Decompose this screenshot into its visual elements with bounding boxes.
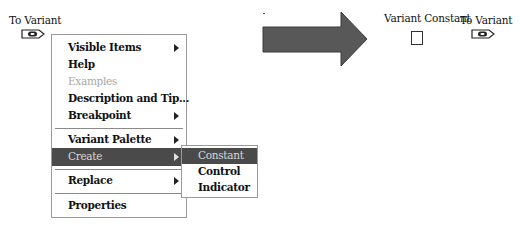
menu-item-label: Create (68, 150, 102, 162)
submenu-item-control[interactable]: Control (182, 164, 257, 180)
menu-item-create[interactable]: Create (52, 148, 186, 166)
to-variant-label-result: To Variant (460, 14, 512, 26)
submenu-item-indicator[interactable]: Indicator (182, 180, 257, 196)
submenu-arrow-icon (174, 136, 179, 144)
menu-item-examples: Examples (52, 73, 186, 91)
right-arrow-icon (255, 5, 375, 75)
submenu-arrow-icon (174, 177, 179, 185)
menu-item-properties[interactable]: Properties (52, 197, 186, 215)
menu-item-replace[interactable]: Replace (52, 172, 186, 190)
menu-item-label: Replace (68, 174, 113, 186)
menu-item-label: Description and Tip... (68, 92, 189, 104)
menu-item-visible-items[interactable]: Visible Items (52, 39, 186, 57)
menu-separator (55, 128, 183, 129)
submenu-item-label: Control (198, 165, 240, 177)
create-submenu: Constant Control Indicator (181, 145, 258, 198)
menu-separator (55, 193, 183, 194)
menu-separator (55, 169, 183, 170)
menu-item-label: Breakpoint (68, 109, 131, 121)
menu-item-breakpoint[interactable]: Breakpoint (52, 107, 186, 125)
menu-item-label: Visible Items (68, 41, 141, 53)
variant-constant-box[interactable] (411, 31, 423, 45)
menu-item-help[interactable]: Help (52, 56, 186, 74)
to-variant-icon[interactable] (21, 29, 45, 39)
menu-item-label: Variant Palette (68, 133, 151, 145)
menu-item-label: Examples (68, 75, 117, 87)
submenu-item-label: Constant (198, 149, 244, 161)
variant-constant-label: Variant Constant (384, 12, 471, 24)
submenu-item-label: Indicator (198, 181, 250, 193)
to-variant-label: To Variant (9, 14, 61, 26)
menu-item-description-and-tip[interactable]: Description and Tip... (52, 90, 186, 108)
submenu-arrow-icon (174, 44, 179, 52)
submenu-item-constant[interactable]: Constant (182, 148, 257, 164)
submenu-arrow-icon (174, 112, 179, 120)
menu-item-label: Properties (68, 199, 126, 211)
to-variant-icon[interactable] (471, 29, 495, 39)
menu-item-label: Help (68, 58, 95, 70)
submenu-arrow-icon (174, 153, 179, 161)
context-menu: Visible Items Help Examples Description … (51, 34, 187, 218)
menu-item-variant-palette[interactable]: Variant Palette (52, 131, 186, 149)
